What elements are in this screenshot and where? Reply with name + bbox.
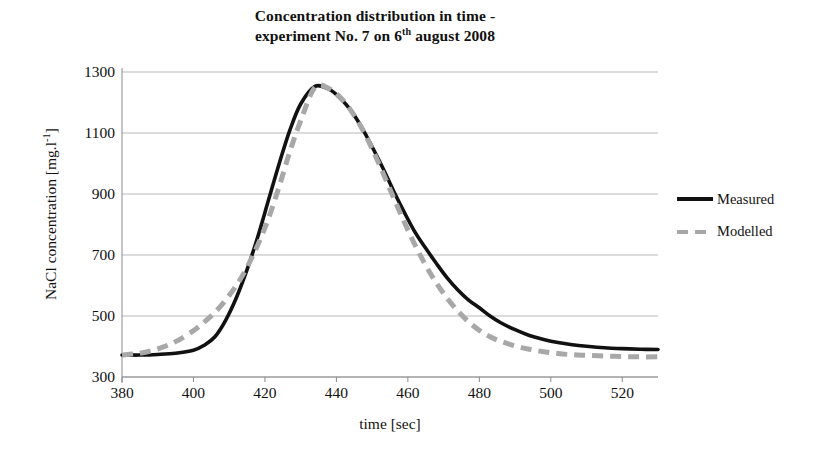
y-tick-label: 1300 [67,63,115,81]
chart-title-line1: Concentration distribution in time - [255,7,495,24]
series-line-measured [122,86,658,356]
legend-label-modelled: Modelled [717,223,773,240]
legend-line-modelled-icon [677,225,713,237]
chart-title-line2-post: august 2008 [411,27,495,44]
chart-title-line2-pre: experiment No. 7 on 6 [255,27,402,44]
x-tick-label: 420 [235,384,295,402]
y-axis-title-post: ] [42,128,59,133]
y-tick-label: 500 [67,307,115,325]
gridlines [122,72,658,377]
x-tick-label: 500 [521,384,581,402]
axis-lines [122,68,658,383]
legend-item-measured: Measured [677,183,774,215]
x-tick-label: 440 [306,384,366,402]
y-axis-title-superscript: -1 [41,133,52,142]
x-axis-ticks [122,377,622,382]
legend-label-measured: Measured [717,191,774,208]
y-tick-label: 900 [67,185,115,203]
x-tick-label: 460 [378,384,438,402]
legend-line-measured-icon [677,193,713,205]
legend-item-modelled: Modelled [677,215,774,247]
y-tick-label: 700 [67,246,115,264]
y-axis-title-pre: NaCl concentration [mg.l [42,142,59,300]
y-axis-title: NaCl concentration [mg.l-1] [42,89,60,339]
y-tick-label: 1100 [67,124,115,142]
x-axis-title: time [sec] [122,415,658,433]
chart-title-superscript: th [402,26,411,37]
x-tick-label: 520 [592,384,652,402]
chart-legend: Measured Modelled [677,183,774,247]
chart-title: Concentration distribution in time - exp… [150,6,600,46]
x-tick-label: 380 [92,384,152,402]
x-tick-label: 480 [449,384,509,402]
x-tick-label: 400 [163,384,223,402]
chart-figure: Concentration distribution in time - exp… [0,0,815,465]
